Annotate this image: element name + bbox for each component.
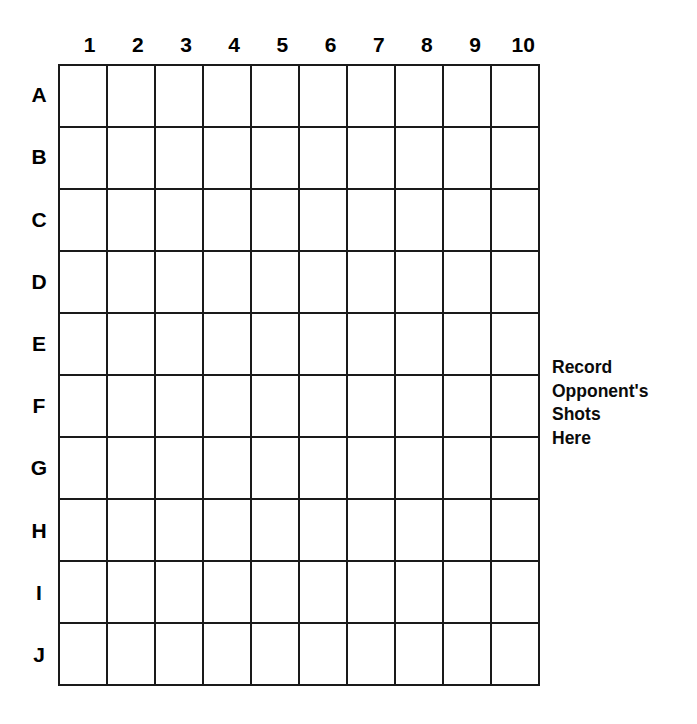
grid-cell-D9[interactable] bbox=[444, 252, 492, 314]
grid-cell-A7[interactable] bbox=[348, 66, 396, 128]
grid-cell-I1[interactable] bbox=[60, 562, 108, 624]
grid-cell-F10[interactable] bbox=[492, 376, 540, 438]
grid-cell-J8[interactable] bbox=[396, 624, 444, 686]
grid-cell-A4[interactable] bbox=[204, 66, 252, 128]
grid-cell-A9[interactable] bbox=[444, 66, 492, 128]
grid-cell-H6[interactable] bbox=[300, 500, 348, 562]
grid-cell-D4[interactable] bbox=[204, 252, 252, 314]
grid-cell-B7[interactable] bbox=[348, 128, 396, 190]
grid-cell-A8[interactable] bbox=[396, 66, 444, 128]
grid-cell-I8[interactable] bbox=[396, 562, 444, 624]
grid-cell-A5[interactable] bbox=[252, 66, 300, 128]
grid-cell-H9[interactable] bbox=[444, 500, 492, 562]
grid-cell-G3[interactable] bbox=[156, 438, 204, 500]
grid-cell-A6[interactable] bbox=[300, 66, 348, 128]
grid-cell-B3[interactable] bbox=[156, 128, 204, 190]
grid-cell-G7[interactable] bbox=[348, 438, 396, 500]
grid-cell-H2[interactable] bbox=[108, 500, 156, 562]
grid-cell-E5[interactable] bbox=[252, 314, 300, 376]
grid-cell-E4[interactable] bbox=[204, 314, 252, 376]
grid-cell-C1[interactable] bbox=[60, 190, 108, 252]
grid-cell-G5[interactable] bbox=[252, 438, 300, 500]
grid-cell-F4[interactable] bbox=[204, 376, 252, 438]
grid-cell-E1[interactable] bbox=[60, 314, 108, 376]
grid-cell-G2[interactable] bbox=[108, 438, 156, 500]
grid-cell-C4[interactable] bbox=[204, 190, 252, 252]
grid-cell-B4[interactable] bbox=[204, 128, 252, 190]
grid-cell-C7[interactable] bbox=[348, 190, 396, 252]
grid-cell-E7[interactable] bbox=[348, 314, 396, 376]
grid-cell-J2[interactable] bbox=[108, 624, 156, 686]
grid-cell-I2[interactable] bbox=[108, 562, 156, 624]
grid-cell-A10[interactable] bbox=[492, 66, 540, 128]
grid-cell-C10[interactable] bbox=[492, 190, 540, 252]
grid-cell-B10[interactable] bbox=[492, 128, 540, 190]
grid-cell-F3[interactable] bbox=[156, 376, 204, 438]
grid-cell-I9[interactable] bbox=[444, 562, 492, 624]
grid-cell-E9[interactable] bbox=[444, 314, 492, 376]
grid-cell-I3[interactable] bbox=[156, 562, 204, 624]
grid-cell-B5[interactable] bbox=[252, 128, 300, 190]
grid-cell-C8[interactable] bbox=[396, 190, 444, 252]
game-grid[interactable] bbox=[58, 64, 540, 686]
grid-cell-B8[interactable] bbox=[396, 128, 444, 190]
grid-cell-G10[interactable] bbox=[492, 438, 540, 500]
grid-cell-J4[interactable] bbox=[204, 624, 252, 686]
grid-cell-J3[interactable] bbox=[156, 624, 204, 686]
grid-cell-E6[interactable] bbox=[300, 314, 348, 376]
grid-cell-G9[interactable] bbox=[444, 438, 492, 500]
grid-cell-H10[interactable] bbox=[492, 500, 540, 562]
grid-cell-D3[interactable] bbox=[156, 252, 204, 314]
grid-cell-H7[interactable] bbox=[348, 500, 396, 562]
grid-cell-J1[interactable] bbox=[60, 624, 108, 686]
grid-cell-D1[interactable] bbox=[60, 252, 108, 314]
grid-cell-E10[interactable] bbox=[492, 314, 540, 376]
grid-cell-C3[interactable] bbox=[156, 190, 204, 252]
grid-cell-J10[interactable] bbox=[492, 624, 540, 686]
grid-cell-B6[interactable] bbox=[300, 128, 348, 190]
grid-cell-J6[interactable] bbox=[300, 624, 348, 686]
grid-cell-A1[interactable] bbox=[60, 66, 108, 128]
grid-cell-C5[interactable] bbox=[252, 190, 300, 252]
grid-cell-D10[interactable] bbox=[492, 252, 540, 314]
grid-cell-D7[interactable] bbox=[348, 252, 396, 314]
grid-cell-B1[interactable] bbox=[60, 128, 108, 190]
grid-cell-I7[interactable] bbox=[348, 562, 396, 624]
grid-cell-F5[interactable] bbox=[252, 376, 300, 438]
grid-cell-H3[interactable] bbox=[156, 500, 204, 562]
grid-cell-D2[interactable] bbox=[108, 252, 156, 314]
grid-cell-C6[interactable] bbox=[300, 190, 348, 252]
grid-cell-H1[interactable] bbox=[60, 500, 108, 562]
grid-cell-F9[interactable] bbox=[444, 376, 492, 438]
grid-cell-E3[interactable] bbox=[156, 314, 204, 376]
grid-cell-B2[interactable] bbox=[108, 128, 156, 190]
grid-cell-G6[interactable] bbox=[300, 438, 348, 500]
grid-cell-J9[interactable] bbox=[444, 624, 492, 686]
grid-cell-F2[interactable] bbox=[108, 376, 156, 438]
grid-cell-D5[interactable] bbox=[252, 252, 300, 314]
grid-cell-E8[interactable] bbox=[396, 314, 444, 376]
grid-cell-B9[interactable] bbox=[444, 128, 492, 190]
grid-cell-E2[interactable] bbox=[108, 314, 156, 376]
grid-cell-I4[interactable] bbox=[204, 562, 252, 624]
grid-cell-H8[interactable] bbox=[396, 500, 444, 562]
grid-cell-G8[interactable] bbox=[396, 438, 444, 500]
grid-cell-F7[interactable] bbox=[348, 376, 396, 438]
grid-cell-H4[interactable] bbox=[204, 500, 252, 562]
grid-cell-D6[interactable] bbox=[300, 252, 348, 314]
grid-cell-I10[interactable] bbox=[492, 562, 540, 624]
grid-cell-D8[interactable] bbox=[396, 252, 444, 314]
grid-cell-G1[interactable] bbox=[60, 438, 108, 500]
grid-cell-G4[interactable] bbox=[204, 438, 252, 500]
grid-cell-A3[interactable] bbox=[156, 66, 204, 128]
grid-cell-F8[interactable] bbox=[396, 376, 444, 438]
grid-cell-I5[interactable] bbox=[252, 562, 300, 624]
grid-cell-F6[interactable] bbox=[300, 376, 348, 438]
grid-cell-J7[interactable] bbox=[348, 624, 396, 686]
grid-cell-C9[interactable] bbox=[444, 190, 492, 252]
grid-cell-C2[interactable] bbox=[108, 190, 156, 252]
grid-cell-A2[interactable] bbox=[108, 66, 156, 128]
grid-cell-F1[interactable] bbox=[60, 376, 108, 438]
grid-cell-J5[interactable] bbox=[252, 624, 300, 686]
grid-cell-H5[interactable] bbox=[252, 500, 300, 562]
